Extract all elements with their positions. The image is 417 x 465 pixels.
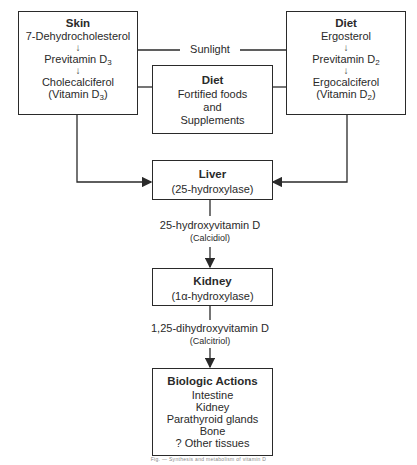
skin-step-vitamin-d3: (Vitamin D3) [19,88,137,100]
supplements-text: Supplements [153,114,272,127]
diet-step-vitamin-d2: (Vitamin D2) [287,88,405,100]
sunlight-label: Sunlight [180,43,240,56]
calcidiol-alias: (Calcidiol) [110,232,310,245]
diet-plant-title: Diet [287,17,405,29]
calcitriol-label: 1,25-dihydroxyvitamin D (Calcitriol) [110,322,310,348]
diet-plant-box: Diet Ergosterol ↓ Previtamin D2 ↓ Ergoca… [286,11,406,115]
diet-fortified-box: Diet Fortified foods and Supplements [152,65,273,134]
down-arrow-icon: ↓ [19,42,137,53]
kidney-box: Kidney (1α-hydroxylase) [152,268,273,306]
skin-box: Skin 7-Dehydrocholesterol ↓ Previtamin D… [18,11,138,115]
diet-step-ergocalciferol: Ergocalciferol [287,76,405,88]
skin-step-cholecalciferol: Cholecalciferol [19,76,137,88]
calcidiol-label: 25-hydroxyvitamin D (Calcidiol) [110,219,310,245]
action-other-tissues: ? Other tissues [153,437,272,449]
diet-fortified-title: Diet [153,74,272,87]
diet-step-previtamin-d2: Previtamin D2 [287,53,405,65]
down-arrow-icon: ↓ [287,42,405,53]
calcitriol-name: 1,25-dihydroxyvitamin D [110,322,310,335]
calcitriol-alias: (Calcitriol) [110,335,310,348]
biologic-actions-title: Biologic Actions [153,375,272,387]
action-kidney: Kidney [153,401,272,413]
diet-to-liver-arrow [273,114,347,182]
and-text: and [153,101,272,114]
skin-step-previtamin-d3: Previtamin D3 [19,53,137,65]
biologic-actions-box: Biologic Actions Intestine Kidney Parath… [152,368,273,456]
calcidiol-name: 25-hydroxyvitamin D [110,219,310,232]
liver-enzyme: (25-hydroxylase) [153,182,272,196]
action-intestine: Intestine [153,389,272,401]
kidney-enzyme: (1α-hydroxylase) [153,289,272,303]
action-parathyroid: Parathyroid glands [153,413,272,425]
liver-box: Liver (25-hydroxylase) [152,160,273,200]
fortified-foods-text: Fortified foods [153,88,272,101]
skin-title: Skin [19,17,137,29]
liver-title: Liver [153,167,272,181]
down-arrow-icon: ↓ [287,65,405,76]
figure-caption: Fig. — Synthesis and metabolism of vitam… [0,456,417,462]
diet-step-ergosterol: Ergosterol [287,30,405,42]
action-bone: Bone [153,425,272,437]
skin-step-7-dehydrocholesterol: 7-Dehydrocholesterol [19,30,137,42]
kidney-title: Kidney [153,274,272,288]
down-arrow-icon: ↓ [19,65,137,76]
skin-to-liver-arrow [77,114,151,182]
